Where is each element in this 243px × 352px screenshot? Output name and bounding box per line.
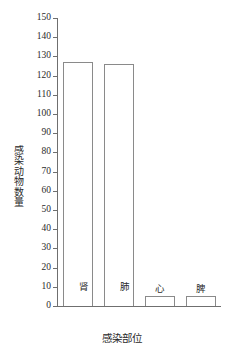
- bar-category-label: 肺: [109, 282, 129, 292]
- y-tick-label: 110: [37, 90, 51, 100]
- y-tick-label: 100: [37, 109, 51, 119]
- y-tick-label: 60: [42, 186, 52, 196]
- y-tick-label: 80: [42, 148, 52, 158]
- y-tick-label: 20: [42, 263, 52, 273]
- y-tick-mark: [53, 172, 57, 173]
- y-tick-label: 150: [37, 13, 51, 23]
- y-tick-label: 10: [42, 282, 52, 292]
- bar-category-label: 心: [150, 284, 170, 294]
- y-tick-label: 130: [37, 52, 51, 62]
- y-tick-mark: [53, 76, 57, 77]
- bar: [186, 296, 216, 306]
- y-tick-mark: [53, 18, 57, 19]
- y-tick-label: 40: [42, 224, 52, 234]
- bar-chart: 感染动物数量 010203040506070809010011012013014…: [0, 0, 243, 352]
- y-tick-mark: [53, 95, 57, 96]
- y-tick-label: 120: [37, 71, 51, 81]
- y-tick-label: 0: [46, 301, 51, 311]
- y-tick-mark: [53, 56, 57, 57]
- bar-category-label: 脾: [191, 284, 211, 294]
- y-tick-mark: [53, 229, 57, 230]
- y-tick-mark: [53, 287, 57, 288]
- bar: [63, 62, 93, 306]
- y-tick-mark: [53, 114, 57, 115]
- y-tick-mark: [53, 191, 57, 192]
- y-tick-mark: [53, 306, 57, 307]
- x-axis-title: 感染部位: [0, 330, 243, 345]
- bar-category-label: 肾: [68, 282, 88, 292]
- y-tick-label: 90: [42, 128, 52, 138]
- y-tick-mark: [53, 268, 57, 269]
- y-tick-mark: [53, 210, 57, 211]
- y-tick-mark: [53, 133, 57, 134]
- bar: [145, 296, 175, 306]
- y-tick-label: 30: [42, 244, 52, 254]
- y-tick-label: 50: [42, 205, 52, 215]
- plot-area: 0102030405060708090100110120130140150 肾肺…: [57, 18, 221, 306]
- y-tick-label: 140: [37, 32, 51, 42]
- y-axis-line: [57, 18, 58, 306]
- y-tick-mark: [53, 152, 57, 153]
- y-tick-label: 70: [42, 167, 52, 177]
- bar: [104, 64, 134, 306]
- y-tick-mark: [53, 248, 57, 249]
- y-tick-mark: [53, 37, 57, 38]
- y-axis-title: 感染动物数量: [12, 145, 23, 208]
- x-axis-line: [57, 306, 221, 307]
